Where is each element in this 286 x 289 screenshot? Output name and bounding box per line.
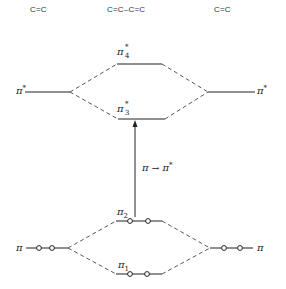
transition-arrowhead <box>133 120 138 127</box>
corr-pi3-to-right-star <box>165 92 208 119</box>
electron-icon <box>37 246 42 251</box>
label-left-pi-star: π* <box>16 85 26 96</box>
corr-pi2-to-right-pi <box>162 221 210 248</box>
label-right-pi: π <box>257 243 264 253</box>
electron-icon <box>145 272 150 277</box>
corr-left-star-to-pi3 <box>70 92 118 119</box>
label-pi3-star: π*3 <box>117 104 124 114</box>
label-right-pi-star: π* <box>257 85 267 96</box>
transition-label: π → π* <box>142 162 173 173</box>
corr-pi1-to-right-pi <box>162 248 210 274</box>
corr-left-pi-to-pi1 <box>68 248 116 274</box>
corr-pi4-to-right-star <box>162 64 208 92</box>
label-pi4-star: π*4 <box>117 47 124 57</box>
electron-icon <box>222 246 227 251</box>
label-pi1: π1 <box>118 260 129 273</box>
label-pi2: π2 <box>117 207 128 220</box>
electron-icon <box>50 246 55 251</box>
mo-diagram <box>0 0 286 289</box>
arrow-right-icon: → <box>152 163 160 173</box>
electron-icon <box>128 219 133 224</box>
electron-icon <box>146 219 151 224</box>
corr-left-pi-to-pi2 <box>68 221 116 248</box>
corr-left-star-to-pi4 <box>70 64 117 92</box>
electron-icon <box>238 246 243 251</box>
label-left-pi: π <box>16 243 23 253</box>
